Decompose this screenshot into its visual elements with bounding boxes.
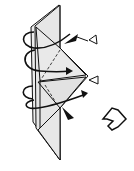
next-step-arrow-icon [103, 108, 126, 130]
hollow-triangle-marker-upper [89, 35, 97, 44]
diagram-canvas [0, 0, 134, 171]
folded-paper-model [31, 5, 88, 160]
origami-diagram: Origami folding step [0, 0, 134, 171]
push-arrow-lower [62, 107, 74, 120]
hollow-triangle-marker-lower [89, 76, 98, 84]
